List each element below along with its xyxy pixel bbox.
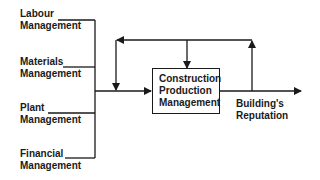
input-label-labour: Labour Management [20, 8, 81, 32]
process-line-3: Management [159, 97, 219, 109]
process-line-1: Construction [159, 73, 219, 85]
output-label: Building's Reputation [236, 98, 288, 122]
process-line-2: Production [159, 85, 219, 97]
input-label-financial: Financial Management [20, 148, 81, 172]
input-label-plant: Plant Management [20, 102, 81, 126]
input-label-materials: Materials Management [20, 56, 81, 80]
process-box: Construction Production Management [152, 68, 220, 114]
